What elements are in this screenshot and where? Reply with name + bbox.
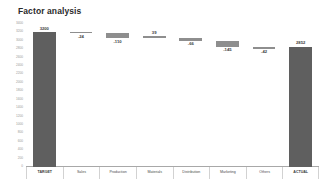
x-axis-category-label: Materials: [147, 171, 162, 175]
x-axis-category-label: TARGET: [38, 171, 53, 175]
bar-value-label: -110: [113, 40, 121, 44]
y-axis-tick-label: 400: [18, 149, 23, 152]
y-axis-tick-label: 2800: [16, 48, 23, 51]
axis-area: 0200400600800100012001400160018002000220…: [26, 24, 319, 167]
bar-materials[interactable]: 39: [143, 36, 166, 38]
chart-title: Factor analysis: [18, 6, 81, 16]
y-axis-tick-label: 1000: [16, 123, 23, 126]
bar-value-label: 39: [152, 31, 157, 35]
y-axis-tick-label: 2200: [16, 73, 23, 76]
bar-value-label: 2852: [296, 41, 305, 45]
y-axis-tick-label: 3000: [16, 39, 23, 42]
plot-area: 0200400600800100012001400160018002000220…: [26, 24, 319, 167]
x-axis-category-production: Production: [99, 167, 136, 179]
bar-production[interactable]: -110: [106, 33, 129, 38]
bar-value-label: -24: [78, 35, 84, 39]
bar-sales[interactable]: -24: [70, 32, 93, 33]
bar-value-label: -145: [223, 48, 231, 52]
y-axis-tick-label: 3200: [16, 31, 23, 34]
bar-others[interactable]: -42: [253, 47, 276, 49]
x-axis-category-actual: ACTUAL: [282, 167, 319, 179]
x-axis-category-label: Sales: [77, 171, 86, 175]
y-axis-tick-label: 1600: [16, 98, 23, 101]
y-axis-tick-label: 1200: [16, 115, 23, 118]
y-axis-tick-label: 2600: [16, 56, 23, 59]
y-axis-tick-label: 2000: [16, 81, 23, 84]
x-axis-category-target: TARGET: [26, 167, 63, 179]
bar-value-label: -42: [261, 50, 267, 54]
x-axis-category-label: ACTUAL: [293, 171, 308, 175]
x-axis-category-sales: Sales: [63, 167, 100, 179]
y-axis-tick-label: 0: [21, 165, 23, 168]
x-axis-category-others: Others: [246, 167, 283, 179]
y-axis-tick-label: 1400: [16, 107, 23, 110]
bar-value-label: -66: [188, 42, 194, 46]
y-axis-tick-label: 1800: [16, 90, 23, 93]
x-axis-category-label: Marketing: [220, 171, 236, 175]
y-axis-tick-label: 2400: [16, 64, 23, 67]
y-axis-tick-label: 200: [18, 157, 23, 160]
x-axis-category-marketing: Marketing: [209, 167, 246, 179]
y-axis-tick-label: 3400: [16, 22, 23, 25]
x-axis-category-distribution: Distribution: [173, 167, 210, 179]
y-axis-tick-label: 800: [18, 132, 23, 135]
bar-target[interactable]: 3200: [33, 32, 56, 167]
bar-distribution[interactable]: -66: [179, 38, 202, 41]
x-axis-category-materials: Materials: [136, 167, 173, 179]
chart-root: Factor analysis 020040060080010001200140…: [0, 0, 327, 188]
bar-value-label: 3200: [40, 27, 49, 31]
y-axis-tick-label: 600: [18, 140, 23, 143]
x-axis-category-label: Others: [259, 171, 270, 175]
x-axis-category-label: Production: [109, 171, 126, 175]
x-axis-category-label: Distribution: [182, 171, 200, 175]
bar-marketing[interactable]: -145: [216, 41, 239, 47]
bar-actual[interactable]: 2852: [289, 47, 312, 167]
